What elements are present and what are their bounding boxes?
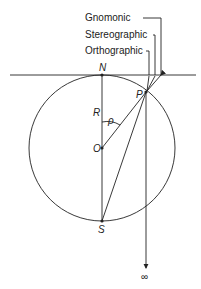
point-p-dot	[144, 90, 147, 93]
rho-label: ρ	[107, 115, 114, 126]
point-p-label: P	[136, 89, 143, 100]
point-o-label: O	[93, 143, 101, 154]
point-o-dot	[100, 146, 103, 149]
line-sp	[102, 92, 146, 221]
stereographic-leader	[153, 35, 155, 75]
point-s-label: S	[98, 224, 105, 235]
infinity-label: ∞	[141, 271, 148, 282]
point-r-label: R	[93, 107, 100, 118]
stereographic-label: Stereographic	[85, 29, 147, 40]
point-s-dot	[100, 219, 103, 222]
orthographic-label: Orthographic	[85, 45, 143, 56]
gnomonic-leader	[143, 18, 161, 75]
map-projection-diagram: Gnomonic Stereographic Orthographic N P …	[0, 0, 201, 289]
point-n-dot	[100, 73, 103, 76]
orthographic-leader	[146, 51, 149, 75]
point-n-label: N	[99, 62, 107, 73]
gnomonic-label: Gnomonic	[85, 12, 131, 23]
